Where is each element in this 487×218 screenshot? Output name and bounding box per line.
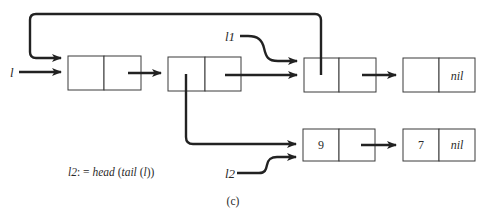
node-5-head-value: 9 [318,138,324,152]
node-6-tail-value: nil [451,138,464,152]
statement-fn-head: head [92,166,115,178]
variable-l-label: l [10,65,14,80]
pointer-l2-to-node-5 [237,157,296,173]
statement-assign: : = [77,166,90,178]
linked-list-diagram: nil 9 7 nil l l1 l2 l2: = head (tail (l)… [0,0,487,218]
node-4: nil [403,58,475,92]
node-6: 7 nil [403,129,475,161]
pointer-l1-to-node-3 [240,36,297,61]
figure-caption: (c) [227,195,240,208]
node-1-head-cell [68,56,104,90]
variable-l2-label: l2 [225,166,236,181]
node-4-tail-value: nil [451,69,464,83]
assignment-statement: l2: = head (tail (l)) [68,166,155,179]
node-6-head-value: 7 [418,138,424,152]
statement-lhs: l2 [68,166,77,178]
node-4-head-cell [403,58,439,92]
diagram-canvas: nil 9 7 nil l l1 l2 l2: = head (tail (l)… [0,0,487,218]
statement-fn-tail: tail [121,166,136,178]
variable-l1-label: l1 [225,29,235,44]
